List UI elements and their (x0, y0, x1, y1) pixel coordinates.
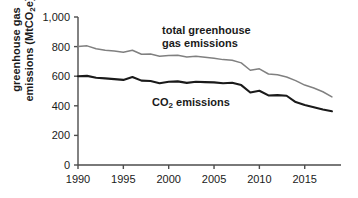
series-annotation-total-ghg: total greenhouse gas emissions (162, 24, 251, 49)
x-tick-label: 1995 (111, 173, 135, 185)
x-tick-label: 2000 (156, 173, 180, 185)
series-annotation-co2: CO2 emissions (152, 96, 230, 111)
y-axis-label-line1: greenhouse gas (10, 0, 23, 120)
y-tick-label: 400 (26, 100, 70, 112)
y-tick-label: 800 (26, 41, 70, 53)
x-tick-label: 2015 (292, 173, 316, 185)
y-tick-label: 600 (26, 70, 70, 82)
series-line (78, 46, 332, 97)
subscript-2: 2 (169, 101, 173, 110)
chart-figure: greenhouse gas emissions (MtCO2e) 020040… (0, 0, 358, 198)
x-tick-label: 2005 (202, 173, 226, 185)
y-tick-label: 0 (26, 159, 70, 171)
annotation-total-line2: gas emissions (162, 37, 251, 50)
x-tick-label: 1990 (66, 173, 90, 185)
y-tick-label: 1,000 (26, 11, 70, 23)
annotation-co2-text: CO2 emissions (152, 96, 230, 111)
annotation-total-line1: total greenhouse (162, 24, 251, 37)
y-tick-label: 200 (26, 129, 70, 141)
x-tick-label: 2010 (247, 173, 271, 185)
